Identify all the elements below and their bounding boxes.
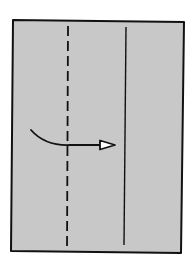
origami-fold-diagram [0, 0, 194, 264]
diagram-canvas [0, 0, 194, 264]
